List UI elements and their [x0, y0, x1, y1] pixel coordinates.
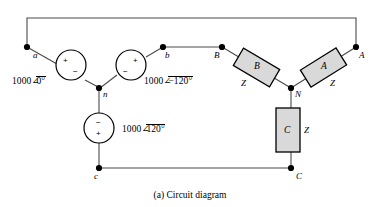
- source-a-plus-sign: +: [63, 57, 68, 65]
- impedance-b-z-label: Z: [241, 79, 246, 88]
- source-a-angle-symbol: ∠: [31, 77, 39, 87]
- node-label-A: A: [359, 51, 365, 60]
- impedance-b-phase-label: B: [254, 62, 260, 72]
- circuit-schematic: [0, 0, 380, 207]
- source-c-value-label: 1000∠120°: [122, 124, 165, 135]
- source-b-angle-symbol: ∠: [163, 77, 171, 87]
- node-label-B: B: [214, 51, 220, 60]
- node-dot-n: [96, 85, 102, 91]
- source-a-minus-sign: −: [73, 68, 78, 76]
- node-label-a: a: [33, 51, 38, 60]
- source-c-minus-sign: −: [96, 119, 101, 127]
- source-c-plus-sign: +: [96, 130, 101, 138]
- node-label-n: n: [103, 90, 108, 99]
- node-label-C: C: [296, 172, 302, 181]
- impedance-a-phase-label: A: [321, 62, 327, 72]
- impedance-a-z-label: Z: [330, 79, 335, 88]
- node-dot-C: [288, 165, 294, 171]
- source-b-value-label: 1000∠−120°: [144, 76, 193, 87]
- source-a-magnitude: 1000: [12, 76, 31, 86]
- wire-a-to-A: [27, 18, 356, 47]
- branch-n-c: [84, 88, 114, 168]
- impedance-c-z-label: Z: [304, 126, 309, 135]
- circuit-diagram-figure: + − − + − + 1000∠0° 1000∠−120° 1000∠120°…: [0, 0, 380, 207]
- impedance-c-phase-label: C: [284, 126, 290, 136]
- source-c-magnitude: 1000: [122, 124, 141, 134]
- source-b-magnitude: 1000: [144, 76, 163, 86]
- source-b-plus-sign: +: [133, 57, 138, 65]
- node-label-b: b: [165, 51, 170, 60]
- source-a-value-label: 1000∠0°: [12, 76, 46, 87]
- source-c-angle-symbol: ∠: [141, 125, 149, 135]
- figure-caption: (a) Circuit diagram: [0, 190, 380, 200]
- node-dot-N: [288, 85, 294, 91]
- node-label-c: c: [94, 172, 98, 181]
- node-label-N: N: [295, 90, 301, 99]
- source-b-angle-value: −120°: [168, 76, 193, 87]
- node-dot-a: [24, 44, 30, 50]
- source-b-minus-sign: −: [123, 68, 128, 76]
